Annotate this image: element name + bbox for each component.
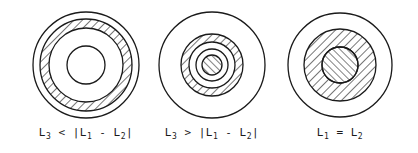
hatched-disk (202, 55, 222, 75)
label-fig3: L1 = L2 (317, 126, 363, 141)
hatched-annulus (40, 19, 132, 111)
fig2-concentric-circles (159, 12, 265, 118)
label-fig2: L3 > |L1 - L2| (165, 126, 259, 141)
fig1-concentric-circles (33, 12, 139, 118)
fig3-concentric-circles (288, 13, 392, 117)
circle-outline (67, 46, 105, 84)
hatched-disk (322, 47, 358, 83)
label-fig1: L3 < |L1 - L2| (39, 126, 133, 141)
